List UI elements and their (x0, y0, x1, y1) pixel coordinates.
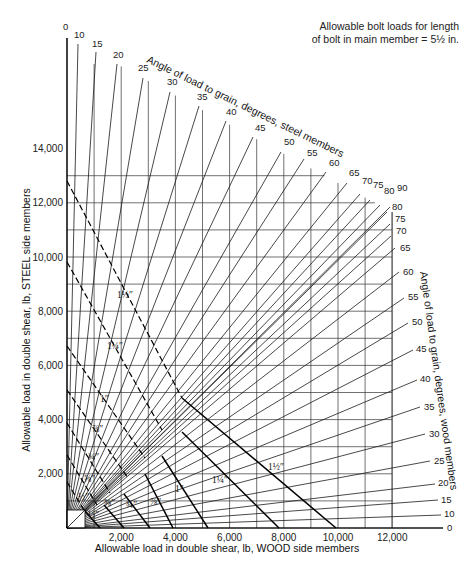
wood-angle-label: 65 (400, 242, 411, 253)
y-axis-label: Allowable load in double shear, lb, STEE… (20, 188, 32, 451)
steel-angle-label: 10 (74, 29, 85, 40)
steel-bolt-label: 1½″ (117, 290, 133, 300)
y-tick-label: 2,000 (38, 468, 63, 479)
wood-angle-label: 25 (434, 455, 445, 466)
steel-angle-label: 40 (226, 106, 237, 117)
wood-angle-label: 50 (412, 316, 423, 327)
wood-bolt-label: 1″ (175, 484, 184, 494)
wood-angle-label: 0 (447, 522, 452, 533)
bolt-diameter-curves (67, 398, 336, 528)
wood-angle-label: 60 (403, 266, 414, 277)
wood-angle-ray-75 (67, 224, 390, 528)
steel-angle-ray-30 (67, 92, 170, 528)
wood-angle-label: 30 (429, 428, 440, 439)
wood-bolt-label: ⅝″ (104, 498, 115, 508)
steel-angle-ray-65 (67, 183, 347, 528)
steel-bolt-label: ½″ (78, 492, 89, 502)
steel-angle-ray-35 (67, 106, 199, 528)
wood-bolt-label: ½″ (88, 510, 99, 520)
wood-angle-ray-45 (67, 350, 413, 528)
steel-bolt-label: 1″ (100, 394, 109, 404)
steel-angle-label: 80 (384, 185, 395, 196)
steel-angle-label: 90 (397, 182, 408, 193)
wood-angle-label: 20 (438, 477, 449, 488)
steel-angle-label: 0 (63, 21, 68, 32)
note-line-1: Allowable bolt loads for length (269, 20, 459, 33)
wood-angle-label: 40 (420, 373, 431, 384)
wood-angle-ray-70 (67, 236, 391, 528)
y-tick-label: 6,000 (38, 360, 63, 371)
x-tick-label: 12,000 (377, 532, 408, 543)
angle-labels: 0101520253035404550556065707580908075706… (63, 21, 455, 533)
y-tick-label: 8,000 (38, 306, 63, 317)
steel-angle-label: 45 (255, 122, 266, 133)
steel-bolt-label: ¾″ (88, 452, 99, 462)
steel-angle-label: 55 (307, 147, 318, 158)
steel-angle-ray-55 (67, 159, 304, 528)
note-line-2: of bolt in main member = 5½ in. (269, 33, 459, 46)
steel-angle-label: 15 (92, 38, 103, 49)
steel-angle-label: 65 (349, 167, 360, 178)
bolt-load-nomograph: 2,0004,0006,0008,00010,00012,0002,0004,0… (0, 0, 475, 572)
y-tick-label: 4,000 (38, 414, 63, 425)
wood-bolt-label: ⅞″ (150, 497, 161, 507)
chart-note: Allowable bolt loads for length of bolt … (269, 20, 459, 46)
y-tick-label: 10,000 (32, 252, 63, 263)
wood-bolt-label: 1¼″ (212, 475, 228, 485)
bolt-curve-4 (162, 456, 208, 528)
wood-angle-label: 55 (408, 291, 419, 302)
wood-angle-label: 70 (396, 225, 407, 236)
wood-angle-label: 75 (395, 213, 406, 224)
y-tick-label: 14,000 (32, 143, 63, 154)
wood-angle-label: 45 (416, 343, 427, 354)
steel-angle-label: 75 (373, 179, 384, 190)
steel-angle-label: 70 (362, 175, 373, 186)
steel-angle-label: 20 (113, 49, 124, 60)
wood-angle-rays (67, 212, 443, 528)
y-tick-label: 12,000 (32, 197, 63, 208)
wood-bolt-label: 1½″ (268, 462, 284, 472)
wood-angle-label: 35 (424, 401, 435, 412)
wood-angle-ray-30 (67, 434, 425, 528)
steel-bolt-label: 1¼″ (107, 341, 123, 351)
wood-angle-label: 15 (441, 494, 452, 505)
wood-angle-label: 10 (444, 508, 455, 519)
steel-bolt-label: ⅞″ (92, 424, 103, 434)
steel-bolt-label: ⅝″ (84, 474, 95, 484)
wood-angle-ray-50 (67, 323, 408, 528)
wood-angle-label: 80 (392, 201, 403, 212)
steel-angle-label: 60 (329, 157, 340, 168)
gridlines (67, 64, 392, 528)
steel-angle-label: 50 (284, 136, 295, 147)
steel-angle-ray-60 (67, 172, 326, 528)
wood-bolt-label: ¾″ (126, 500, 137, 510)
x-axis-label: Allowable load in double shear, lb, WOOD… (95, 542, 359, 554)
steel-angle-ray-10 (67, 44, 78, 528)
